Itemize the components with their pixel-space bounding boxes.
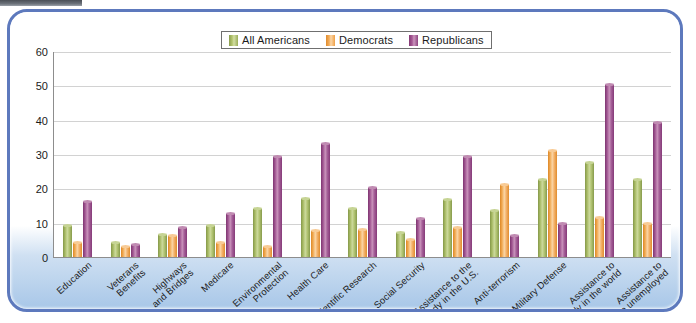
bar-purple[interactable] xyxy=(463,157,472,257)
bar-group xyxy=(434,52,481,257)
bar-purple[interactable] xyxy=(416,219,425,257)
y-tick-label: 50 xyxy=(22,80,48,92)
y-tick-label: 20 xyxy=(22,183,48,195)
legend-item-democrats[interactable]: Democrats xyxy=(326,34,393,46)
bar-purple[interactable] xyxy=(368,188,377,257)
bar-green[interactable] xyxy=(63,226,72,257)
bar-green[interactable] xyxy=(585,163,594,257)
y-tick-label: 30 xyxy=(22,149,48,161)
bar-purple[interactable] xyxy=(558,224,567,257)
bar-green[interactable] xyxy=(206,226,215,257)
x-tick-label: Anti-terrorism xyxy=(471,260,521,307)
chart-legend: All Americans Democrats Republicans xyxy=(221,31,492,49)
bar-group xyxy=(101,52,148,257)
bar-orange[interactable] xyxy=(263,247,272,257)
bar-orange[interactable] xyxy=(500,185,509,257)
bar-purple[interactable] xyxy=(131,245,140,257)
bar-green[interactable] xyxy=(253,209,262,257)
y-tick-label: 10 xyxy=(22,218,48,230)
bar-group xyxy=(196,52,243,257)
legend-swatch-purple-icon xyxy=(409,35,418,46)
bar-orange[interactable] xyxy=(406,240,415,257)
plot-wrapper: 0102030405060 EducationVeterans Benefits… xyxy=(10,12,683,312)
bar-group xyxy=(624,52,671,257)
bar-group xyxy=(481,52,528,257)
bar-green[interactable] xyxy=(396,233,405,257)
bar-green[interactable] xyxy=(348,209,357,257)
x-tick-label: Environmental Protection xyxy=(231,260,290,312)
bar-purple[interactable] xyxy=(321,144,330,257)
bar-orange[interactable] xyxy=(548,151,557,257)
y-tick-label: 0 xyxy=(22,252,48,264)
bar-purple[interactable] xyxy=(226,214,235,257)
x-tick-label: Veterans Benefits xyxy=(106,260,148,300)
x-tick-label: Highways and Bridges xyxy=(143,260,195,310)
bar-orange[interactable] xyxy=(453,228,462,257)
bar-green[interactable] xyxy=(443,200,452,257)
x-tick-label: Health Care xyxy=(286,260,331,302)
bar-green[interactable] xyxy=(301,199,310,257)
bar-green[interactable] xyxy=(490,211,499,257)
legend-label-all-americans: All Americans xyxy=(242,34,310,46)
scan-edge-artifact xyxy=(0,0,82,6)
bar-green[interactable] xyxy=(111,243,120,257)
bar-purple[interactable] xyxy=(178,228,187,257)
legend-label-democrats: Democrats xyxy=(339,34,393,46)
bar-green[interactable] xyxy=(633,180,642,257)
bar-green[interactable] xyxy=(158,235,167,257)
bar-purple[interactable] xyxy=(273,157,282,257)
y-axis: 0102030405060 xyxy=(22,52,48,258)
bar-group xyxy=(529,52,576,257)
legend-swatch-orange-icon xyxy=(326,35,335,46)
x-tick-label: Education xyxy=(55,260,94,296)
bar-orange[interactable] xyxy=(73,243,82,257)
bar-purple[interactable] xyxy=(510,236,519,257)
x-tick-label: Medicare xyxy=(200,260,236,294)
bar-orange[interactable] xyxy=(311,231,320,257)
bar-orange[interactable] xyxy=(168,236,177,257)
legend-label-republicans: Republicans xyxy=(422,34,484,46)
chart-panel: All Americans Democrats Republicans 0102… xyxy=(7,9,683,312)
bar-purple[interactable] xyxy=(653,123,662,257)
bar-group xyxy=(149,52,196,257)
bar-green[interactable] xyxy=(538,180,547,257)
bar-orange[interactable] xyxy=(358,230,367,257)
bar-group xyxy=(244,52,291,257)
bars-layer xyxy=(54,52,671,257)
bar-orange[interactable] xyxy=(643,224,652,257)
bar-group xyxy=(291,52,338,257)
plot-area xyxy=(53,52,671,258)
bar-group xyxy=(339,52,386,257)
bar-purple[interactable] xyxy=(605,85,614,257)
legend-item-republicans[interactable]: Republicans xyxy=(409,34,484,46)
bar-orange[interactable] xyxy=(595,218,604,257)
y-tick-label: 40 xyxy=(22,115,48,127)
legend-swatch-green-icon xyxy=(229,35,238,46)
x-axis: EducationVeterans BenefitsHighways and B… xyxy=(53,260,671,312)
bar-group xyxy=(386,52,433,257)
bar-orange[interactable] xyxy=(216,243,225,257)
y-tick-label: 60 xyxy=(22,46,48,58)
bar-orange[interactable] xyxy=(121,247,130,257)
bar-purple[interactable] xyxy=(83,202,92,257)
bar-group xyxy=(576,52,623,257)
bar-group xyxy=(54,52,101,257)
legend-item-all-americans[interactable]: All Americans xyxy=(229,34,310,46)
